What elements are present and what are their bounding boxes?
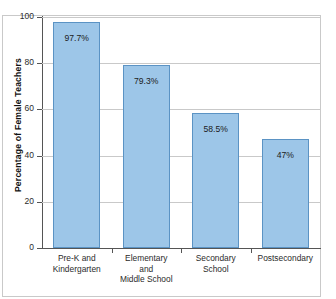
bar[interactable]: 79.3% xyxy=(123,65,170,248)
bar-value-label: 79.3% xyxy=(124,76,169,86)
bar-value-label: 58.5% xyxy=(193,124,238,134)
x-category-line: Pre-K and xyxy=(39,253,115,264)
x-category-label: Pre-K andKindergarten xyxy=(39,253,115,274)
x-category-line: Kindergarten xyxy=(39,264,115,275)
y-tick-label-0: 0 xyxy=(8,243,34,252)
x-category-line: School xyxy=(178,264,254,275)
y-tick-label-80: 80 xyxy=(8,58,34,67)
y-tick-label-20: 20 xyxy=(8,197,34,206)
x-category-line: and xyxy=(109,264,185,275)
x-category-line: Postsecondary xyxy=(248,253,324,264)
bar-value-label: 97.7% xyxy=(54,33,99,43)
bar[interactable]: 58.5% xyxy=(192,113,239,248)
x-category-line: Secondary xyxy=(178,253,254,264)
bar-chart-figure: Percentage of Female Teachers 0204060801… xyxy=(0,0,336,299)
gridline-100 xyxy=(42,17,320,18)
x-category-label: SecondarySchool xyxy=(178,253,254,274)
y-tick-label-60: 60 xyxy=(8,104,34,113)
bar[interactable]: 97.7% xyxy=(53,22,100,248)
y-tick-label-100: 100 xyxy=(8,12,34,21)
x-category-label: Postsecondary xyxy=(248,253,324,264)
x-category-label: ElementaryandMiddle School xyxy=(109,253,185,285)
x-category-line: Middle School xyxy=(109,274,185,285)
x-category-line: Elementary xyxy=(109,253,185,264)
y-tick-label-40: 40 xyxy=(8,151,34,160)
plot-area: 97.7%79.3%58.5%47% xyxy=(42,17,320,248)
bar-value-label: 47% xyxy=(263,150,308,160)
bar[interactable]: 47% xyxy=(262,139,309,248)
